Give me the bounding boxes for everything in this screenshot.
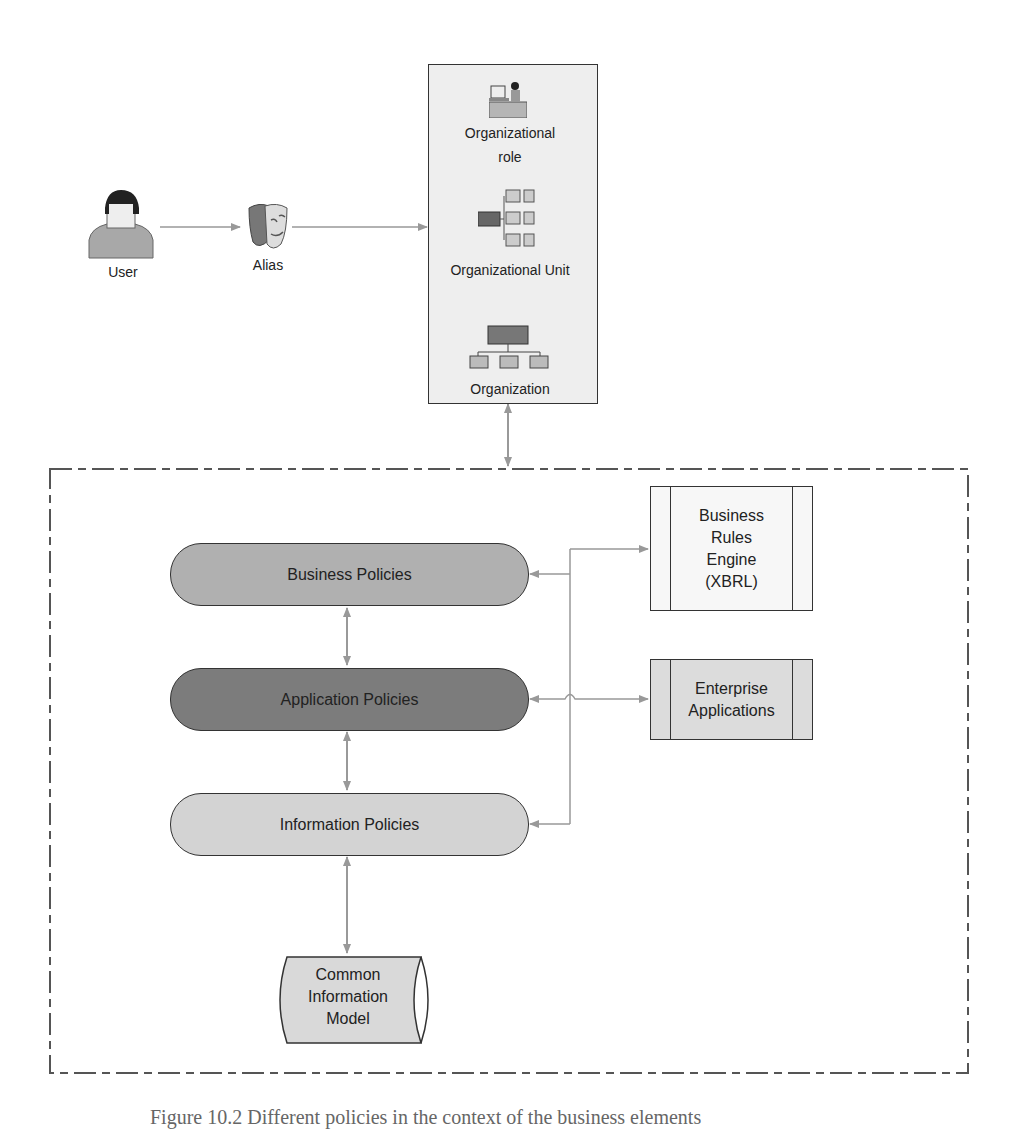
cim-line2: Information bbox=[283, 986, 413, 1008]
user-label: User bbox=[95, 264, 151, 280]
enterprise-apps-line2: Applications bbox=[688, 700, 774, 722]
information-policies[interactable]: Information Policies bbox=[170, 793, 529, 856]
organization-node[interactable] bbox=[468, 324, 552, 374]
org-chart-icon bbox=[468, 324, 552, 374]
process-bar-right bbox=[792, 660, 793, 739]
enterprise-applications[interactable]: Enterprise Applications bbox=[650, 659, 813, 740]
org-unit-icon bbox=[478, 188, 540, 250]
business-policies-label: Business Policies bbox=[287, 566, 412, 584]
common-information-model[interactable]: Common Information Model bbox=[275, 956, 433, 1044]
organization-label: Organization bbox=[440, 381, 580, 397]
process-bar-left bbox=[670, 660, 671, 739]
user-node[interactable] bbox=[85, 188, 157, 260]
process-bar-left bbox=[670, 487, 671, 610]
user-icon bbox=[85, 188, 157, 260]
masks-icon bbox=[247, 202, 291, 252]
figure-caption: Figure 10.2 Different policies in the co… bbox=[150, 1106, 1010, 1129]
rules-engine-line1: Business bbox=[699, 505, 764, 527]
rules-engine-line3: Engine bbox=[699, 549, 764, 571]
alias-label: Alias bbox=[240, 257, 296, 273]
arrow-application-enterprise bbox=[530, 695, 648, 700]
desk-worker-icon bbox=[489, 82, 527, 118]
application-policies[interactable]: Application Policies bbox=[170, 668, 529, 731]
cim-line3: Model bbox=[283, 1008, 413, 1030]
rules-engine-line4: (XBRL) bbox=[699, 571, 764, 593]
process-bar-right bbox=[792, 487, 793, 610]
cim-line1: Common bbox=[283, 964, 413, 986]
org-unit-label: Organizational Unit bbox=[440, 262, 580, 278]
business-rules-engine[interactable]: Business Rules Engine (XBRL) bbox=[650, 486, 813, 611]
rules-engine-line2: Rules bbox=[699, 527, 764, 549]
enterprise-apps-line1: Enterprise bbox=[688, 678, 774, 700]
org-unit-node[interactable] bbox=[478, 188, 540, 250]
role-label-line2: role bbox=[440, 149, 580, 165]
business-policies[interactable]: Business Policies bbox=[170, 543, 529, 606]
information-policies-label: Information Policies bbox=[280, 816, 420, 834]
role-node[interactable] bbox=[489, 82, 527, 118]
role-label-line1: Organizational bbox=[440, 125, 580, 141]
application-policies-label: Application Policies bbox=[281, 691, 419, 709]
alias-node[interactable] bbox=[247, 202, 291, 252]
